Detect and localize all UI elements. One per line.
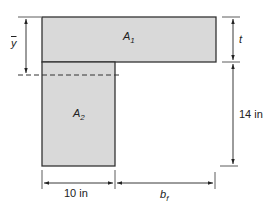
t-section-diagram: A1 A2 y t 14 in 10 in bf xyxy=(0,0,277,210)
t-dimension xyxy=(222,17,240,62)
label-a2-sub: 2 xyxy=(80,113,84,122)
ybar-dimension xyxy=(18,17,41,73)
label-a2: A2 xyxy=(73,108,85,119)
flange-overhang-dimension xyxy=(117,172,215,189)
label-a1: A1 xyxy=(123,31,135,42)
diagram-canvas xyxy=(0,0,277,210)
label-14in: 14 in xyxy=(239,109,263,120)
label-ybar: y xyxy=(11,38,17,49)
web-height-dimension xyxy=(220,64,238,166)
label-bf: bf xyxy=(160,189,168,200)
label-a1-sub: 1 xyxy=(130,36,134,45)
label-t: t xyxy=(239,34,242,45)
label-10in: 10 in xyxy=(64,188,88,199)
